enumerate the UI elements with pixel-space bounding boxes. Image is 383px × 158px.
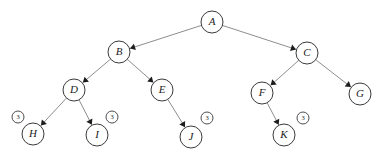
- node-label: D: [69, 83, 78, 95]
- tree-node-i[interactable]: I: [86, 124, 108, 146]
- node-label: C: [303, 46, 311, 58]
- edge-line: [271, 60, 299, 85]
- tree-node-j[interactable]: J: [180, 126, 202, 148]
- tree-edge-b-d: [83, 59, 111, 82]
- badge-h: 3: [12, 111, 24, 123]
- tree-edge-c-g: [316, 60, 351, 87]
- tree-edge-d-i: [79, 100, 92, 125]
- node-label: G: [356, 87, 364, 99]
- badge-i: 3: [106, 111, 118, 123]
- tree-edge-e-j: [168, 99, 185, 127]
- tree-diagram: ABCDEFG3H3I3J3K: [0, 0, 383, 158]
- tree-node-e[interactable]: E: [151, 79, 173, 101]
- tree-diagram-canvas: ABCDEFG3H3I3J3K: [0, 0, 383, 158]
- arrowhead-icon: [345, 81, 351, 87]
- badge-label: 3: [301, 114, 304, 121]
- node-label: H: [28, 127, 38, 139]
- node-label: A: [208, 15, 216, 27]
- tree-edge-a-c: [222, 25, 296, 51]
- tree-node-d[interactable]: D: [63, 79, 85, 101]
- badge-label: 3: [205, 114, 208, 121]
- nodes-layer: ABCDEFG3H3I3J3K: [12, 11, 371, 148]
- edge-line: [83, 59, 111, 82]
- badge-label: 3: [110, 113, 113, 120]
- tree-edge-d-h: [41, 98, 67, 126]
- tree-node-g[interactable]: G: [349, 83, 371, 105]
- tree-node-c[interactable]: C: [296, 42, 318, 64]
- edge-line: [127, 59, 153, 82]
- tree-node-f[interactable]: F: [251, 82, 273, 104]
- tree-node-b[interactable]: B: [108, 41, 130, 63]
- tree-node-a[interactable]: A: [201, 11, 223, 33]
- node-label: F: [258, 86, 266, 98]
- node-label: K: [279, 128, 288, 140]
- badge-k: 3: [297, 112, 309, 124]
- tree-edge-b-e: [127, 59, 153, 82]
- tree-edge-c-f: [271, 60, 299, 85]
- edge-line: [130, 25, 202, 48]
- edge-line: [41, 98, 67, 126]
- tree-node-k[interactable]: K: [273, 124, 295, 146]
- tree-edge-f-k: [267, 103, 279, 125]
- node-label: B: [116, 45, 123, 57]
- tree-node-h[interactable]: H: [22, 123, 44, 145]
- badge-j: 3: [201, 112, 213, 124]
- badge-label: 3: [16, 113, 19, 120]
- node-label: E: [158, 83, 166, 95]
- edge-line: [222, 25, 296, 49]
- edge-line: [316, 60, 351, 87]
- tree-edge-a-b: [130, 25, 202, 50]
